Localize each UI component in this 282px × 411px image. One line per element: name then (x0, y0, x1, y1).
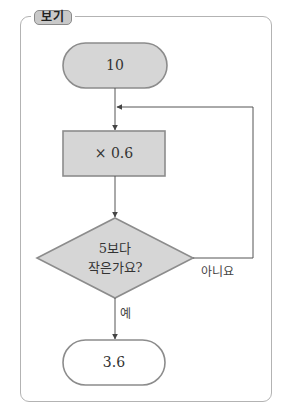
decision-label-line2: 작은가요? (55, 257, 175, 276)
start-terminal-label: 10 (63, 57, 167, 73)
end-terminal-label: 3.6 (63, 354, 165, 370)
edge-no-label: 아니요 (201, 262, 234, 279)
process-box-label: × 0.6 (63, 145, 165, 161)
decision-label-line1: 5보다 (55, 238, 175, 257)
edge-yes-label: 예 (120, 304, 131, 321)
